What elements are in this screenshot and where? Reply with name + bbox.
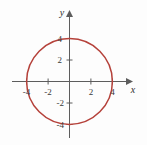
y-axis-arrow-icon: [66, 10, 73, 17]
y-tick-label-neg4: -4: [57, 120, 65, 130]
x-tick-label-pos2: 2: [89, 87, 94, 97]
y-tick-label-neg2: -2: [57, 98, 65, 108]
x-tick-label-neg4: -4: [23, 87, 31, 97]
x-tick-label-neg2: -2: [44, 87, 52, 97]
y-tick-label-pos4: 4: [58, 34, 63, 44]
coordinate-plane: -4 -2 2 4 4 2 -2 -4 y x: [0, 0, 147, 145]
x-tick-label-pos4: 4: [110, 87, 115, 97]
y-axis-label: y: [59, 7, 65, 18]
x-axis-label: x: [130, 84, 136, 95]
graph-figure: -4 -2 2 4 4 2 -2 -4 y x: [0, 0, 147, 145]
y-tick-label-pos2: 2: [58, 55, 63, 65]
